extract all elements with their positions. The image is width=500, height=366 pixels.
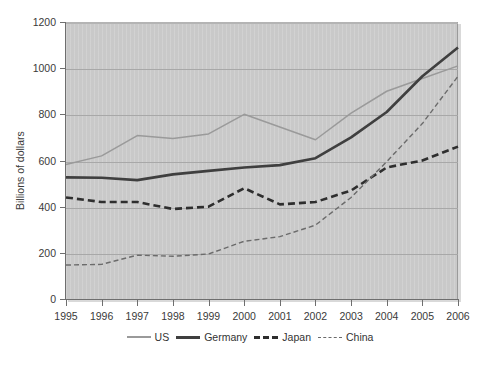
series-line-germany [66, 47, 458, 180]
legend-label-japan: Japan [282, 332, 311, 343]
legend-entry-china[interactable]: China [318, 332, 373, 343]
legend-swatch-germany [176, 336, 200, 339]
legend-label-germany: Germany [204, 332, 247, 343]
legend-entry-japan[interactable]: Japan [254, 332, 311, 343]
series-line-china [66, 76, 458, 265]
legend-swatch-japan [254, 336, 278, 339]
legend-entry-us[interactable]: US [127, 332, 170, 343]
series-line-japan [66, 147, 458, 209]
legend-swatch-china [318, 337, 342, 338]
series-lines-svg [0, 0, 500, 366]
line-chart-figure: 020040060080010001200 199519961997199819… [0, 0, 500, 366]
chart-legend: USGermanyJapanChina [0, 332, 500, 343]
series-line-us [66, 66, 458, 165]
legend-label-china: China [346, 332, 373, 343]
legend-label-us: US [155, 332, 170, 343]
legend-swatch-us [127, 336, 151, 338]
legend-entry-germany[interactable]: Germany [176, 332, 247, 343]
series-group [66, 47, 458, 265]
